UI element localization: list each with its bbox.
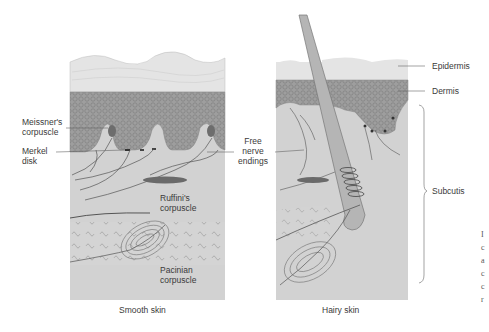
hairy-skin-panel (276, 15, 408, 300)
label-line: endings (234, 156, 272, 166)
label-line: Ruffini's (160, 193, 196, 203)
label-line: Merkel (22, 146, 48, 156)
label-dermis: Dermis (432, 86, 459, 96)
edge-char: c (481, 280, 485, 293)
label-meissner-corpuscle: Meissner's corpuscle (22, 117, 62, 137)
caption-hairy-skin: Hairy skin (322, 305, 359, 315)
edge-char: c (481, 241, 485, 254)
edge-char: I (481, 228, 485, 241)
edge-char: c (481, 267, 485, 280)
label-line: corpuscle (22, 127, 62, 137)
label-epidermis: Epidermis (432, 61, 470, 71)
label-line: corpuscle (160, 275, 196, 285)
label-line: nerve (234, 146, 272, 156)
label-line: Pacinian (160, 265, 196, 275)
skin-diagram (0, 0, 489, 332)
label-free-nerve-endings: Free nerve endings (234, 136, 272, 166)
label-pacinian-corpuscle: Pacinian corpuscle (160, 265, 196, 285)
edge-char: a (481, 254, 485, 267)
smooth-skin-panel (70, 52, 225, 300)
label-line: corpuscle (160, 203, 196, 213)
label-line: Meissner's (22, 117, 62, 127)
cropped-edge-text: I c a c c r (481, 228, 485, 306)
label-line: disk (22, 156, 48, 166)
label-line: Free (234, 136, 272, 146)
label-subcutis: Subcutis (432, 186, 465, 196)
edge-char: r (481, 293, 485, 306)
label-ruffini-corpuscle: Ruffini's corpuscle (160, 193, 196, 213)
label-merkel-disk: Merkel disk (22, 146, 48, 166)
caption-smooth-skin: Smooth skin (119, 305, 166, 315)
